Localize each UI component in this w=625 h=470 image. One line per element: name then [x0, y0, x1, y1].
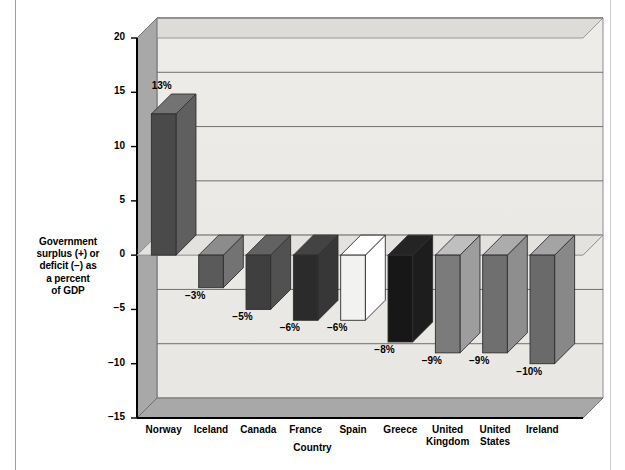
- bar-value-label-france: −6%: [280, 322, 300, 333]
- y-tick-label--15: −15: [95, 411, 125, 422]
- x-axis-title: Country: [0, 442, 625, 453]
- plot-area: [0, 0, 625, 470]
- bar-front-face: [151, 114, 176, 255]
- y-tick-label-15: 15: [95, 85, 125, 96]
- bar-front-face: [530, 255, 555, 364]
- bar-spain[interactable]: [341, 235, 386, 320]
- x-category-label-ireland: Ireland: [508, 424, 576, 436]
- bar-value-label-greece: −8%: [374, 344, 394, 355]
- bar-value-label-canada: −5%: [232, 311, 252, 322]
- y-tick-label-5: 5: [95, 194, 125, 205]
- bar-ireland[interactable]: [530, 235, 575, 364]
- bar-side-face: [555, 235, 575, 364]
- bar-front-face: [199, 255, 224, 288]
- bar-front-face: [341, 255, 366, 320]
- bar-greece[interactable]: [388, 235, 433, 342]
- bar-front-face: [246, 255, 271, 309]
- bar-side-face: [176, 94, 196, 255]
- bar-front-face: [435, 255, 460, 353]
- y-tick-label--10: −10: [95, 357, 125, 368]
- bar-front-face: [483, 255, 508, 353]
- bar-value-label-united-states: −9%: [469, 355, 489, 366]
- y-tick-label-0: 0: [95, 248, 125, 259]
- plot-top-face: [137, 18, 603, 38]
- bar-value-label-ireland: −10%: [516, 366, 542, 377]
- bar-united-states[interactable]: [483, 235, 528, 353]
- bar-front-face: [293, 255, 318, 320]
- bar-value-label-united-kingdom: −9%: [422, 355, 442, 366]
- bar-side-face: [507, 235, 527, 353]
- plot-floor: [137, 398, 603, 418]
- bar-value-label-spain: −6%: [327, 322, 347, 333]
- bar-france[interactable]: [293, 235, 338, 320]
- y-tick-label--5: −5: [95, 302, 125, 313]
- bar-norway[interactable]: [151, 94, 196, 255]
- bar-value-label-iceland: −3%: [185, 290, 205, 301]
- y-tick-label-10: 10: [95, 140, 125, 151]
- bar-united-kingdom[interactable]: [435, 235, 480, 353]
- gdp-surplus-deficit-bar-chart: Government surplus (+) or deficit (−) as…: [0, 0, 625, 470]
- bar-front-face: [388, 255, 413, 342]
- y-tick-label-20: 20: [95, 31, 125, 42]
- bar-value-label-norway: 13%: [152, 80, 172, 91]
- bar-side-face: [460, 235, 480, 353]
